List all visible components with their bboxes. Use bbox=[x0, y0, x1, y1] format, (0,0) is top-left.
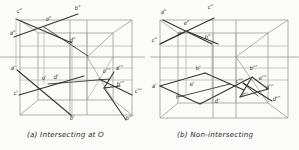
caption-panel-a: (a) Intersecting at O bbox=[27, 130, 104, 139]
caption-panel-b: (b) Non-intersecting bbox=[177, 130, 253, 139]
paper-background bbox=[0, 0, 299, 150]
engineering-drawing-figure: .ink{stroke:#2b2b2b;stroke-width:.85;fil… bbox=[0, 0, 299, 150]
